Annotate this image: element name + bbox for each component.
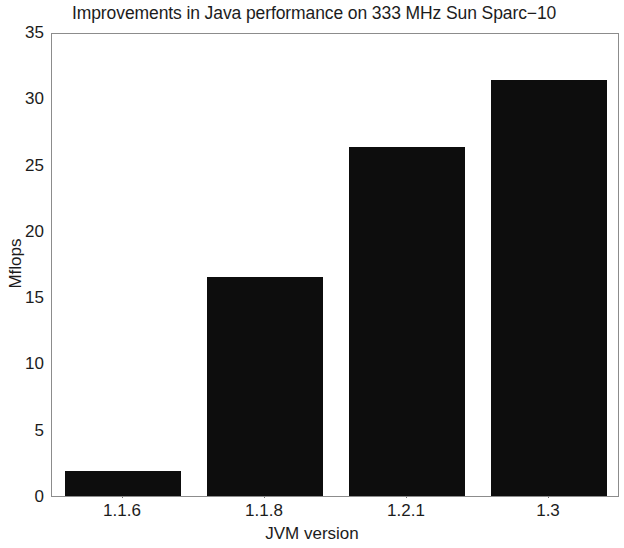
x-tick-label: 1.1.8 xyxy=(204,502,324,520)
bar xyxy=(65,471,181,496)
y-tick-label: 35 xyxy=(4,24,44,41)
y-tick-label: 0 xyxy=(4,488,44,505)
chart-title: Improvements in Java performance on 333 … xyxy=(72,2,624,24)
y-tick-label: 30 xyxy=(4,90,44,107)
y-axis-label: Mflops xyxy=(7,219,24,309)
y-tick-label: 25 xyxy=(4,157,44,174)
bars-layer xyxy=(52,34,618,496)
bar xyxy=(349,147,465,496)
bar xyxy=(491,80,607,496)
x-tick-label: 1.1.6 xyxy=(62,502,182,520)
bar xyxy=(207,277,323,496)
bar-chart-figure: Improvements in Java performance on 333 … xyxy=(0,0,624,548)
y-tick-label: 5 xyxy=(4,422,44,439)
x-tick-label: 1.2.1 xyxy=(346,502,466,520)
x-tick-label: 1.3 xyxy=(488,502,608,520)
plot-area xyxy=(51,33,619,497)
y-tick-label: 10 xyxy=(4,355,44,372)
x-axis-label: JVM version xyxy=(0,525,624,543)
